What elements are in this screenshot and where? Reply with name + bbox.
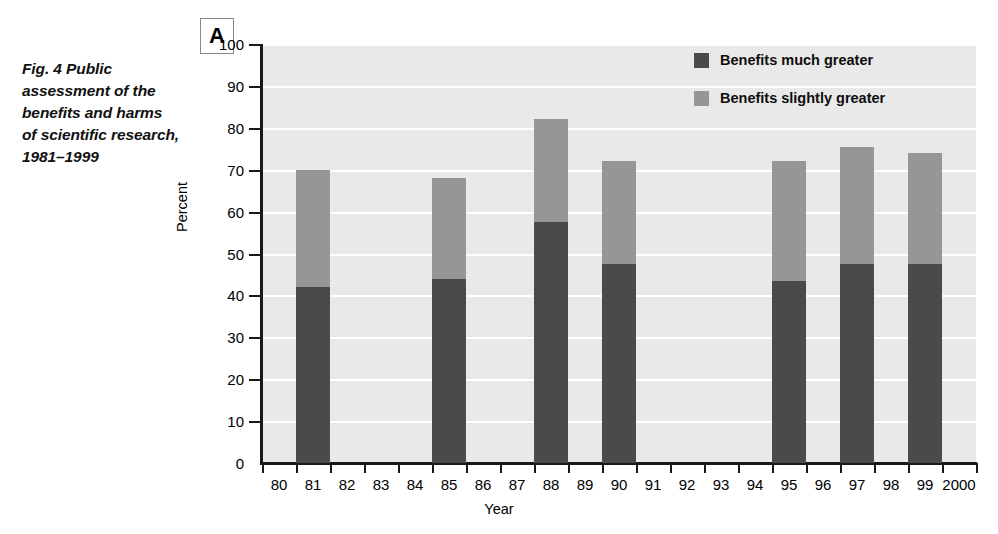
bar-segment-much-greater-95 (772, 281, 806, 463)
bar-segment-much-greater-81 (296, 287, 330, 463)
y-tick-70 (249, 170, 260, 172)
bar-81 (296, 170, 330, 463)
x-tick-15 (772, 463, 774, 473)
x-tick-label-83: 83 (373, 476, 390, 493)
bar-97 (840, 147, 874, 463)
x-tick-label-89: 89 (577, 476, 594, 493)
x-tick-label-87: 87 (509, 476, 526, 493)
y-tick-label-50: 50 (204, 245, 244, 262)
figure-caption: Fig. 4 Publicassessment of thebenefits a… (22, 58, 197, 168)
x-tick-19 (908, 463, 910, 473)
x-tick-4 (398, 463, 400, 473)
x-tick-0 (262, 463, 264, 473)
bar-segment-slightly-greater-81 (296, 170, 330, 287)
x-axis-title: Year (0, 501, 998, 517)
x-tick-label-86: 86 (475, 476, 492, 493)
caption-line-2: benefits and harms (22, 102, 197, 124)
bar-95 (772, 161, 806, 463)
y-tick-label-70: 70 (204, 161, 244, 178)
caption-line-1: assessment of the (22, 80, 197, 102)
caption-line-4: 1981–1999 (22, 146, 197, 168)
x-tick-label-80: 80 (271, 476, 288, 493)
bar-88 (534, 119, 568, 463)
y-tick-label-80: 80 (204, 119, 244, 136)
y-tick-label-90: 90 (204, 77, 244, 94)
x-tick-17 (840, 463, 842, 473)
x-tick-2 (330, 463, 332, 473)
y-tick-100 (249, 44, 260, 46)
gridline-80 (262, 128, 976, 130)
y-tick-30 (249, 337, 260, 339)
x-tick-5 (432, 463, 434, 473)
y-tick-label-100: 100 (204, 36, 244, 53)
x-tick-18 (874, 463, 876, 473)
y-tick-label-0: 0 (204, 455, 244, 472)
legend-item-0: Benefits much greater (694, 52, 885, 68)
x-tick-13 (704, 463, 706, 473)
bar-segment-slightly-greater-85 (432, 178, 466, 279)
x-tick-label-81: 81 (305, 476, 322, 493)
y-axis-line (260, 44, 263, 465)
x-tick-label-84: 84 (407, 476, 424, 493)
x-tick-7 (500, 463, 502, 473)
y-tick-label-20: 20 (204, 371, 244, 388)
x-tick-11 (636, 463, 638, 473)
bar-segment-much-greater-85 (432, 279, 466, 463)
y-tick-label-40: 40 (204, 287, 244, 304)
caption-line-3: of scientific research, (22, 124, 197, 146)
bar-segment-slightly-greater-97 (840, 147, 874, 264)
y-tick-80 (249, 128, 260, 130)
y-tick-60 (249, 212, 260, 214)
legend-swatch-icon-1 (694, 91, 709, 106)
bar-segment-much-greater-90 (602, 264, 636, 463)
x-tick-label-90: 90 (611, 476, 628, 493)
x-tick-label-88: 88 (543, 476, 560, 493)
x-tick-1 (296, 463, 298, 473)
bar-segment-slightly-greater-88 (534, 119, 568, 222)
x-tick-label-97: 97 (849, 476, 866, 493)
legend-swatch-icon-0 (694, 53, 709, 68)
bar-90 (602, 161, 636, 463)
x-tick-label-94: 94 (747, 476, 764, 493)
chart-legend: Benefits much greaterBenefits slightly g… (694, 52, 885, 128)
y-axis-title: Percent (174, 182, 190, 232)
x-tick-8 (534, 463, 536, 473)
bar-segment-much-greater-97 (840, 264, 874, 463)
y-tick-label-30: 30 (204, 329, 244, 346)
x-tick-10 (602, 463, 604, 473)
y-tick-10 (249, 421, 260, 423)
x-tick-label-99: 99 (917, 476, 934, 493)
bar-segment-slightly-greater-99 (908, 153, 942, 264)
x-tick-16 (806, 463, 808, 473)
legend-item-1: Benefits slightly greater (694, 90, 885, 106)
x-tick-6 (466, 463, 468, 473)
y-tick-label-10: 10 (204, 413, 244, 430)
x-tick-9 (568, 463, 570, 473)
legend-label-1: Benefits slightly greater (720, 90, 885, 106)
x-tick-label-92: 92 (679, 476, 696, 493)
x-tick-label-96: 96 (815, 476, 832, 493)
bar-99 (908, 153, 942, 463)
x-tick-20 (942, 463, 944, 473)
x-tick-label-82: 82 (339, 476, 356, 493)
y-tick-90 (249, 86, 260, 88)
x-tick-21 (976, 463, 978, 473)
x-tick-label-85: 85 (441, 476, 458, 493)
bar-segment-much-greater-99 (908, 264, 942, 463)
gridline-100 (262, 44, 976, 46)
caption-line-0: Fig. 4 Public (22, 58, 197, 80)
bar-segment-much-greater-88 (534, 222, 568, 463)
y-tick-20 (249, 379, 260, 381)
bar-segment-slightly-greater-90 (602, 161, 636, 264)
x-tick-label-93: 93 (713, 476, 730, 493)
y-tick-50 (249, 254, 260, 256)
y-tick-label-60: 60 (204, 203, 244, 220)
x-tick-label-98: 98 (883, 476, 900, 493)
figure-root: Fig. 4 Publicassessment of thebenefits a… (0, 0, 998, 534)
x-tick-14 (738, 463, 740, 473)
y-tick-40 (249, 295, 260, 297)
x-tick-3 (364, 463, 366, 473)
x-tick-12 (670, 463, 672, 473)
y-axis-title-holder: Percent (186, 0, 206, 534)
x-tick-label-95: 95 (781, 476, 798, 493)
